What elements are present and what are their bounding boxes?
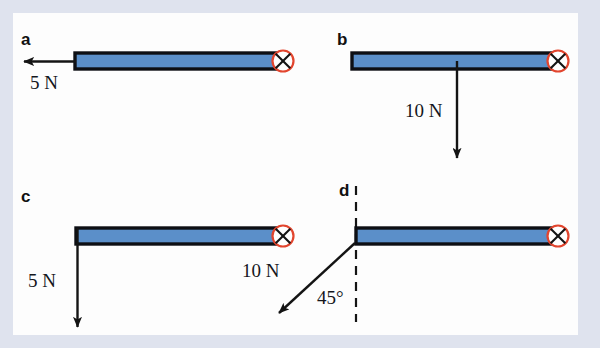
panel-a: a 5 N xyxy=(21,30,294,93)
panel-d-letter: d xyxy=(339,181,349,200)
panel-b-pivot-icon xyxy=(548,51,569,72)
panel-b-letter: b xyxy=(337,30,347,49)
panel-d-angle-label: 45° xyxy=(317,287,344,308)
panel-d: d 10 N 45° xyxy=(242,181,569,322)
force-diagram: a 5 N b 10 N xyxy=(0,0,600,348)
panel-d-pivot-icon xyxy=(548,226,569,247)
panel-a-pivot-icon xyxy=(273,51,294,72)
panel-c-force-label: 5 N xyxy=(28,270,56,291)
panel-a-force-label: 5 N xyxy=(30,72,58,93)
panel-d-bar xyxy=(356,228,558,244)
panel-c-bar xyxy=(76,228,283,244)
panel-c-pivot-icon xyxy=(273,226,294,247)
panel-a-bar xyxy=(75,53,283,69)
figure-page: a 5 N b 10 N xyxy=(0,0,600,348)
panel-d-force-label: 10 N xyxy=(242,260,280,281)
panel-b-force-label: 10 N xyxy=(405,100,443,121)
panel-c: c 5 N xyxy=(21,187,294,327)
panel-c-letter: c xyxy=(21,187,30,206)
panel-b-bar xyxy=(352,53,558,69)
panel-b: b 10 N xyxy=(337,30,569,158)
panel-a-letter: a xyxy=(21,30,31,49)
